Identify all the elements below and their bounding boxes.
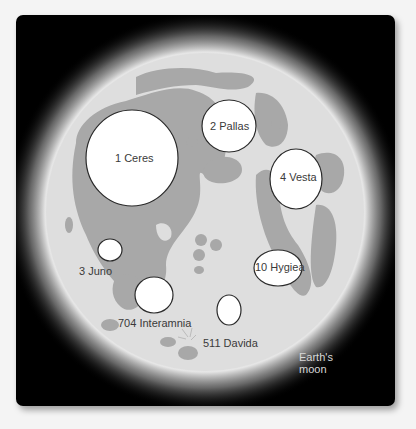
moon-label-line1: Earth's (299, 351, 333, 363)
asteroid-juno-shape (98, 239, 122, 261)
label-interamnia: 704 Interamnia (118, 317, 191, 329)
label-ceres: 1 Ceres (115, 152, 154, 164)
asteroid-davida-shape (217, 295, 241, 325)
label-hygiea: 10 Hygiea (255, 261, 305, 273)
label-vesta: 4 Vesta (280, 171, 317, 183)
diagram-panel: 1 Ceres 2 Pallas 4 Vesta 3 Juno 10 Hygie… (16, 15, 395, 406)
label-earths-moon: Earth's moon (299, 351, 333, 375)
label-pallas: 2 Pallas (210, 120, 249, 132)
asteroid-interamnia-shape (135, 277, 173, 313)
label-juno: 3 Juno (79, 265, 112, 277)
label-davida: 511 Davida (203, 337, 258, 349)
moon-label-line2: moon (299, 363, 333, 375)
